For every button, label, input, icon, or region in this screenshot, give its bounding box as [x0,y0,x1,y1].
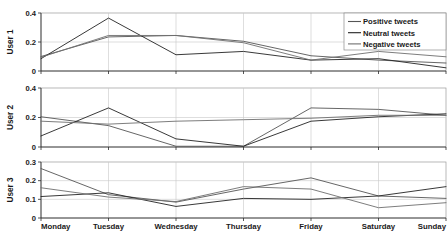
y-tick-label: 0.4 [25,84,36,93]
x-tick-label-friday: Friday [299,222,323,231]
x-tick-label-monday: Monday [41,222,71,231]
y-tick-label: 0.2 [25,113,36,122]
legend-label-negative-tweets: Negative tweets [363,40,420,49]
y-tick-label: 0.4 [25,9,36,18]
y-tick-label: 0.2 [25,38,36,47]
x-tick-label-thursday: Thursday [226,222,262,231]
y-tick-label: 0 [32,67,36,76]
x-tick-label-saturday: Saturday [362,222,396,231]
y-tick-label: 0.1 [25,195,36,204]
panel-2: 00.20.4User 2 [6,84,446,152]
legend-label-neutral-tweets: Neutral tweets [363,29,415,38]
y-axis-title: User 2 [6,105,15,130]
x-tick-label-sunday: Sunday [418,222,447,231]
y-tick-label: 0.2 [25,176,36,185]
x-tick-label-wednesday: Wednesday [154,222,198,231]
x-tick-label-tuesday: Tuesday [93,222,125,231]
y-axis-title: User 1 [6,29,15,54]
panel-3: 00.10.20.3User 3 [6,158,446,223]
y-tick-label: 0.3 [25,158,36,167]
legend-label-positive-tweets: Positive tweets [363,17,418,26]
y-axis-title: User 3 [6,177,15,202]
legend: Positive tweetsNeutral tweetsNegative tw… [344,13,446,50]
y-tick-label: 0 [32,143,36,152]
y-tick-label: 0 [32,214,36,223]
chart-figure: 00.20.4User 100.20.4User 200.10.20.3User… [0,0,448,237]
three-panel-line-chart: 00.20.4User 100.20.4User 200.10.20.3User… [0,0,448,237]
